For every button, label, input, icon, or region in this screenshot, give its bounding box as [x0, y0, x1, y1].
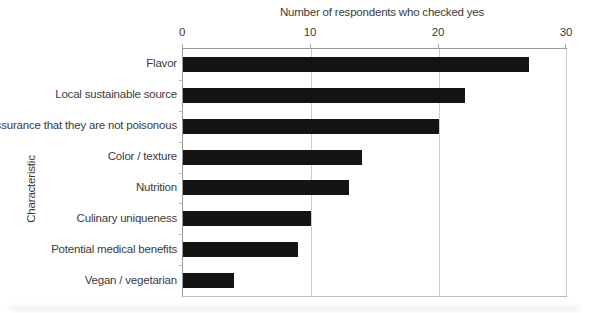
category-label: Local sustainable source — [0, 79, 177, 110]
bar-row — [183, 203, 567, 234]
x-axis-tick-label: 20 — [432, 26, 444, 38]
bar-row — [183, 265, 567, 296]
bar-row — [183, 173, 567, 204]
bar-row — [183, 49, 567, 80]
bar — [183, 211, 311, 226]
bar-row — [183, 111, 567, 142]
category-label: Vegan / vegetarian — [0, 264, 177, 295]
bar — [183, 180, 349, 195]
category-label: Flavor — [0, 48, 177, 79]
x-axis-tick-labels: 0102030 — [182, 26, 566, 41]
category-label: Potential medical benefits — [0, 233, 177, 264]
bar — [183, 242, 298, 257]
bar — [183, 88, 465, 103]
x-axis-tick-label: 0 — [179, 26, 185, 38]
bar — [183, 119, 439, 134]
bar-row — [183, 142, 567, 173]
y-axis-title: Characteristic — [25, 155, 37, 223]
bar — [183, 150, 362, 165]
bar — [183, 57, 529, 72]
chart-title: Number of respondents who checked yes — [182, 6, 582, 18]
page-artifact — [10, 306, 579, 311]
x-axis-tick-label: 30 — [560, 26, 572, 38]
bar-chart-figure: Number of respondents who checked yes 01… — [0, 0, 589, 313]
bar-row — [183, 234, 567, 265]
x-axis-tick-label: 10 — [304, 26, 316, 38]
plot-area — [182, 48, 567, 297]
bar — [183, 273, 234, 288]
category-label: Assurance that they are not poisonous — [0, 110, 177, 141]
bar-row — [183, 80, 567, 111]
